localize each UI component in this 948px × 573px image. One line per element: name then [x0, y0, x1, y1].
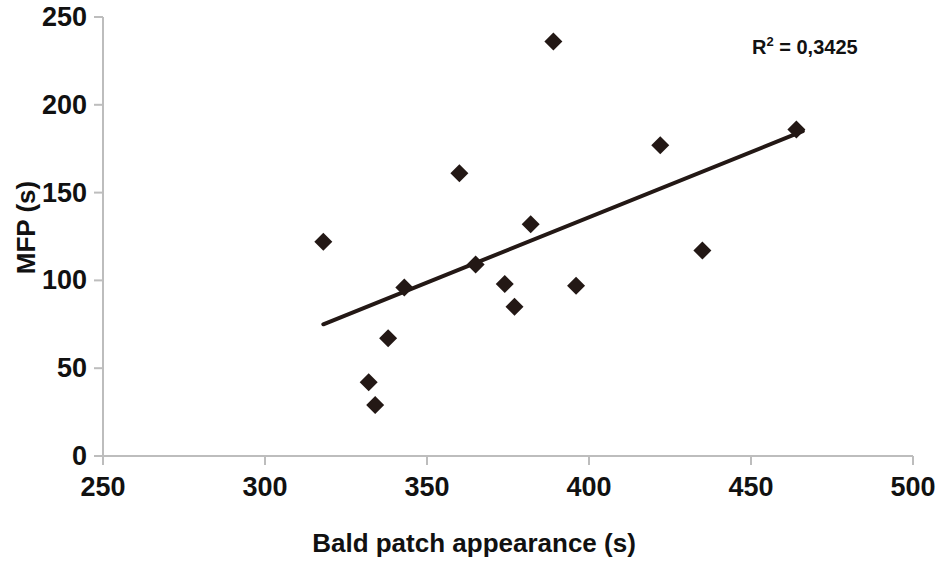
y-axis-ticks: [94, 17, 103, 456]
x-axis-ticks: [103, 456, 913, 465]
data-point-marker: [544, 33, 562, 51]
trendline: [323, 131, 803, 324]
data-point-marker: [505, 298, 523, 316]
x-tick-label: 300: [242, 474, 287, 501]
trendline-segment: [323, 131, 803, 324]
data-points: [314, 33, 805, 414]
axis-lines: [103, 17, 913, 456]
x-tick-label: 400: [566, 474, 611, 501]
chart-canvas: [0, 0, 948, 573]
y-tick-label: 0: [0, 443, 87, 470]
r-squared-annotation: R2 = 0,3425: [752, 34, 858, 59]
data-point-marker: [651, 136, 669, 154]
x-tick-label: 450: [728, 474, 773, 501]
x-tick-label: 350: [404, 474, 449, 501]
y-tick-label: 50: [0, 355, 87, 382]
data-point-marker: [314, 233, 332, 251]
data-point-marker: [522, 215, 540, 233]
r-squared-superscript: 2: [766, 34, 773, 49]
scatter-chart: 250200150100500 250300350400450500 MFP (…: [0, 0, 948, 573]
data-point-marker: [366, 396, 384, 414]
x-tick-label: 500: [890, 474, 935, 501]
x-tick-label: 250: [80, 474, 125, 501]
r-squared-value: = 0,3425: [774, 36, 858, 58]
x-axis-title: Bald patch appearance (s): [0, 528, 948, 559]
data-point-marker: [450, 164, 468, 182]
data-point-marker: [496, 275, 514, 293]
data-point-marker: [379, 329, 397, 347]
data-point-marker: [693, 242, 711, 260]
y-tick-label: 250: [0, 4, 87, 31]
data-point-marker: [360, 373, 378, 391]
r-squared-prefix: R: [752, 36, 766, 58]
y-axis-title: MFP (s): [11, 98, 42, 358]
data-point-marker: [567, 277, 585, 295]
